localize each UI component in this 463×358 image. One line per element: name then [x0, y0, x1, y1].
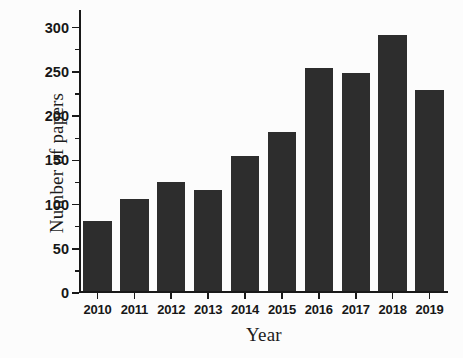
x-axis-tick-label: 2013 [194, 302, 222, 317]
bar [305, 68, 333, 292]
y-axis-tick [72, 71, 79, 73]
x-axis-tick-label: 2019 [415, 302, 443, 317]
y-axis-tick [72, 27, 79, 29]
x-axis-tick [134, 293, 136, 299]
bar [231, 156, 259, 291]
y-axis-minor-tick [75, 93, 79, 94]
x-axis-tick-label: 2017 [342, 302, 370, 317]
x-axis-tick [392, 293, 394, 299]
x-axis-tick [97, 293, 99, 299]
y-axis-tick-label: 50 [53, 241, 69, 257]
y-axis-minor-tick [75, 182, 79, 183]
x-axis-tick-label: 2015 [268, 302, 296, 317]
y-axis-tick-label: 250 [45, 64, 69, 80]
x-axis-tick-label: 2010 [83, 302, 111, 317]
y-axis-minor-tick [75, 270, 79, 271]
y-axis-tick-label: 200 [45, 108, 69, 124]
plot-area: 050100150200250300 201020112012201320142… [79, 10, 448, 293]
x-axis-tick-label: 2016 [305, 302, 333, 317]
y-axis-tick [72, 204, 79, 206]
x-axis-tick-label: 2011 [121, 302, 148, 317]
x-axis-tick [429, 293, 431, 299]
bar [378, 35, 406, 291]
x-axis-tick [355, 293, 357, 299]
x-axis-tick-label: 2014 [231, 302, 259, 317]
x-axis-tick [244, 293, 246, 299]
x-axis-tick-label: 2012 [157, 302, 185, 317]
y-axis-tick-label: 100 [45, 197, 69, 213]
y-axis-tick [72, 248, 79, 250]
x-axis-tick [281, 293, 283, 299]
y-axis-tick-label: 150 [45, 152, 69, 168]
x-axis-tick [318, 293, 320, 299]
x-axis-tick-label: 2018 [379, 302, 407, 317]
bar [194, 190, 222, 292]
y-axis-tick [72, 160, 79, 162]
y-axis-tick [72, 292, 79, 294]
bar [268, 132, 296, 291]
y-axis-tick-label: 300 [45, 20, 69, 36]
bar [342, 73, 370, 291]
y-axis-tick-label: 0 [61, 285, 69, 301]
y-axis-minor-tick [75, 49, 79, 50]
bar [415, 90, 443, 292]
y-axis-minor-tick [75, 226, 79, 227]
bar [120, 199, 148, 291]
bar-chart-figure: Number of papers 050100150200250300 2010… [0, 0, 463, 358]
y-axis-tick [72, 115, 79, 117]
x-axis-tick [207, 293, 209, 299]
y-axis-minor-tick [75, 138, 79, 139]
x-axis-title: Year [79, 324, 449, 346]
x-axis-tick [170, 293, 172, 299]
bar [83, 221, 111, 292]
bar [157, 182, 185, 292]
y-axis-line [79, 10, 81, 293]
